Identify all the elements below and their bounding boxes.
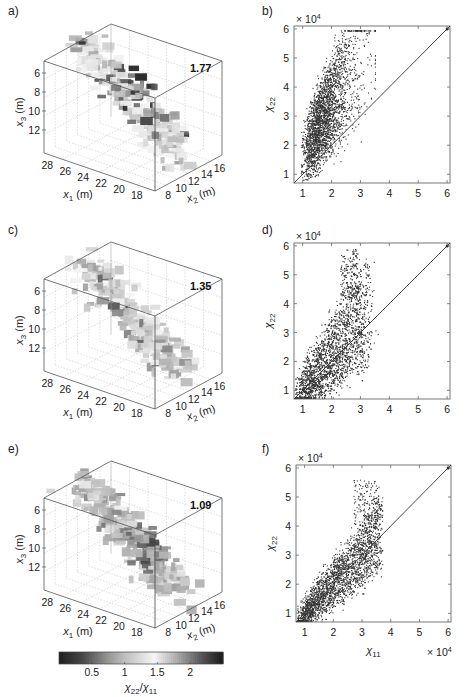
x3-tick: 10 (28, 323, 40, 335)
y-axis-label: χ22 (262, 313, 277, 329)
y-axis-label: χ22 (262, 96, 277, 112)
x-tick: 5 (415, 403, 421, 415)
x2-tick: 16 (214, 599, 226, 611)
x-tick: 6 (444, 187, 450, 199)
x1-tick: 20 (113, 401, 125, 413)
y-tick: 2 (283, 355, 289, 367)
x1-tick: 24 (77, 171, 89, 183)
y-multiplier: × 104 (296, 230, 321, 242)
x1-tick: 26 (59, 165, 71, 177)
x3-tick: 10 (28, 105, 40, 117)
y-tick: 1 (283, 168, 289, 180)
x-tick: 3 (358, 187, 364, 199)
x1-tick: 22 (95, 395, 107, 407)
y-tick: 5 (283, 269, 289, 281)
y-tick: 4 (283, 298, 289, 310)
x1-tick: 18 (131, 626, 143, 638)
reference-line-y-equals-x (294, 26, 450, 183)
figure-canvas: a)b)c)d)e)f)1.77681012x3 (m)282624222018… (0, 0, 467, 697)
x3-tick: 8 (34, 304, 40, 316)
x-tick: 2 (330, 626, 336, 638)
x-axis-label: χ11 (365, 644, 381, 659)
x2-tick: 8 (165, 626, 171, 638)
x3-tick: 6 (34, 504, 40, 516)
x3-tick: 8 (34, 523, 40, 535)
x1-tick: 20 (113, 183, 125, 195)
x2-tick: 12 (188, 393, 200, 405)
panel-label: e) (8, 442, 19, 456)
x1-tick: 20 (113, 620, 125, 632)
x1-tick: 22 (95, 177, 107, 189)
colorbar-tick: 1 (122, 666, 128, 678)
x3-tick: 12 (28, 561, 40, 573)
x-tick: 3 (358, 403, 364, 415)
y-tick: 6 (283, 240, 289, 252)
x-tick: 4 (386, 403, 392, 415)
y-tick: 3 (283, 327, 289, 339)
x-tick: 6 (445, 626, 451, 638)
x-tick: 6 (444, 403, 450, 415)
volume-render (65, 247, 200, 386)
x1-axis-label: x1 (m) (62, 188, 93, 203)
x-tick: 4 (388, 626, 394, 638)
volume-3d-panel: 1.09681012x3 (m)282624222018x1 (m)810121… (13, 461, 226, 645)
x3-tick: 10 (28, 542, 40, 554)
colorbar: 0.511.52χ22/χ11 (59, 652, 224, 696)
x3-axis-label: x3 (m) (13, 315, 28, 346)
scatter-panel: 123456123456× 104× 104χ22χ11 (264, 452, 452, 659)
scatter-panel: 123456123456× 104χ22 (262, 230, 450, 415)
panel-label: f) (262, 442, 269, 456)
reference-line-y-equals-x (294, 243, 450, 399)
y-tick: 4 (283, 81, 289, 93)
y-multiplier: × 104 (298, 452, 323, 464)
x1-tick: 28 (42, 377, 54, 389)
x-tick: 1 (300, 187, 306, 199)
volume-render (46, 468, 204, 614)
x2-tick: 12 (188, 175, 200, 187)
x-tick: 2 (329, 403, 335, 415)
mean-ratio-annotation: 1.77 (190, 62, 211, 74)
x3-tick: 8 (34, 86, 40, 98)
colorbar-tick: 2 (187, 666, 193, 678)
x1-tick: 26 (59, 383, 71, 395)
volume-3d-panel: 1.35681012x3 (m)282624222018x1 (m)810121… (13, 242, 226, 426)
y-tick: 5 (285, 491, 291, 503)
x1-tick: 24 (77, 608, 89, 620)
mean-ratio-annotation: 1.35 (190, 280, 211, 292)
x3-tick: 6 (34, 285, 40, 297)
x-tick: 3 (359, 626, 365, 638)
scatter-points (301, 30, 376, 181)
x2-tick: 14 (201, 605, 213, 617)
x-tick: 4 (386, 187, 392, 199)
colorbar-tick: 1.5 (150, 666, 165, 678)
x1-tick: 18 (131, 189, 143, 201)
x2-tick: 12 (188, 612, 200, 624)
panel-label: a) (8, 4, 19, 18)
x1-tick: 22 (95, 614, 107, 626)
scatter-panel: 123456123456× 104χ22 (262, 13, 450, 199)
y-tick: 6 (283, 23, 289, 35)
x2-axis-label: x2 (m) (184, 621, 218, 645)
x-multiplier: × 104 (427, 646, 452, 658)
panel-label: b) (262, 4, 273, 18)
scatter-points (295, 249, 378, 399)
x-tick: 1 (302, 626, 308, 638)
x1-tick: 18 (131, 407, 143, 419)
x2-tick: 16 (214, 162, 226, 174)
x1-tick: 28 (42, 596, 54, 608)
y-tick: 2 (283, 139, 289, 151)
x3-axis-label: x3 (m) (13, 97, 28, 128)
scatter-points (297, 480, 383, 622)
colorbar-tick: 0.5 (84, 666, 99, 678)
y-tick: 3 (283, 110, 289, 122)
x3-tick: 12 (28, 124, 40, 136)
x1-axis-label: x1 (m) (62, 625, 93, 640)
y-axis-label: χ22 (264, 535, 279, 551)
x2-tick: 8 (165, 407, 171, 419)
colorbar-label: χ22/χ11 (124, 681, 158, 696)
x3-tick: 6 (34, 67, 40, 79)
x-tick: 5 (417, 626, 423, 638)
x3-axis-label: x3 (m) (13, 534, 28, 565)
x2-tick: 14 (201, 168, 213, 180)
y-tick: 4 (285, 520, 291, 532)
